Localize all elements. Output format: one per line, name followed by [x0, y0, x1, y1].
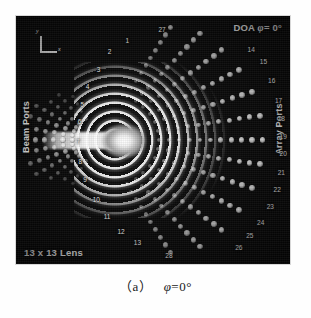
field-sample-dot — [203, 59, 208, 64]
field-sample-dot — [144, 212, 149, 217]
field-sample-dot — [49, 176, 53, 180]
beam-port-number: 8 — [78, 159, 82, 166]
field-sample-dot — [74, 113, 78, 117]
field-sample-dot — [201, 190, 206, 195]
beam-port-number: 5 — [80, 102, 84, 109]
array-port-number: 15 — [260, 59, 267, 66]
field-sample-dot — [156, 129, 160, 133]
field-sample-dot — [134, 177, 138, 181]
field-sample-dot — [188, 204, 193, 209]
field-sample-dot — [34, 148, 39, 153]
doa-annotation: DOA φ= 0° — [233, 22, 282, 33]
field-sample-dot — [178, 51, 183, 56]
field-sample-dot — [76, 174, 80, 178]
array-port-number: 25 — [246, 233, 253, 240]
field-sample-dot — [74, 125, 78, 129]
beam-port-number: 2 — [108, 49, 112, 56]
field-sample-dot — [247, 114, 253, 120]
field-sample-dot — [134, 99, 138, 103]
doa-text: DOA — [233, 22, 254, 33]
field-sample-dot — [66, 154, 70, 158]
field-sample-dot — [157, 108, 161, 112]
field-sample-dot — [72, 129, 77, 134]
field-sample-dot — [180, 199, 185, 204]
field-sample-dot — [37, 158, 42, 163]
field-sample-dot — [70, 117, 74, 121]
field-sample-dot — [210, 173, 215, 178]
array-port-number: 23 — [267, 204, 274, 211]
field-sample-dot — [148, 164, 152, 168]
field-sample-dot — [50, 112, 54, 116]
field-sample-dot — [34, 127, 39, 132]
field-sample-dot — [70, 137, 75, 142]
field-sample-dot — [166, 148, 170, 152]
field-sample-dot — [84, 117, 88, 121]
field-sample-dot — [63, 149, 68, 154]
field-sample-dot — [146, 85, 150, 89]
field-sample-dot — [60, 137, 65, 142]
field-sample-dot — [197, 31, 203, 37]
field-sample-dot — [37, 117, 42, 122]
field-sample-dot — [203, 216, 208, 221]
axis-y-label: y — [36, 28, 39, 34]
field-sample-dot — [69, 106, 73, 110]
array-port-number: 18 — [278, 116, 285, 123]
field-sample-dot — [227, 118, 232, 123]
figure-caption: （a） φ=0° — [0, 276, 311, 295]
field-sample-dot — [197, 244, 203, 250]
field-sample-dot — [125, 94, 129, 98]
array-port-number: 17 — [275, 98, 282, 105]
field-sample-dot — [191, 237, 197, 243]
field-sample-dot — [178, 224, 183, 229]
field-sample-dot — [148, 220, 153, 225]
field-sample-dot — [260, 137, 266, 143]
array-port-number: 26 — [235, 245, 242, 252]
field-sample-dot — [157, 168, 161, 172]
field-sample-dot — [153, 78, 158, 83]
field-sample-dot — [210, 81, 215, 86]
field-sample-dot — [236, 207, 242, 213]
beam-port-number: 11 — [104, 214, 111, 221]
field-sample-dot — [237, 159, 242, 164]
lens-size-label: 13 x 13 Lens — [24, 247, 83, 258]
field-sample-dot — [239, 92, 245, 98]
field-sample-dot — [172, 58, 177, 63]
beam-port-number: 7 — [76, 139, 80, 146]
field-sample-dot — [156, 147, 160, 151]
field-sample-dot — [148, 56, 153, 61]
field-sample-dot — [125, 182, 129, 186]
doa-value: = 0° — [264, 22, 282, 33]
field-sample-dot — [146, 190, 150, 194]
array-port-number: 14 — [248, 47, 255, 54]
field-sample-dot — [69, 170, 73, 174]
field-sample-dot — [166, 127, 170, 131]
array-port-number: 24 — [257, 220, 264, 227]
field-sample-dot — [56, 105, 60, 109]
field-sample-dot — [49, 100, 53, 104]
field-sample-dot — [33, 137, 38, 142]
field-sample-dot — [236, 67, 242, 73]
field-sample-dot — [58, 117, 62, 121]
figure-page: y x DOA φ= 0° 13 x 13 Lens Beam Ports Ar… — [0, 0, 311, 318]
field-sample-dot — [42, 108, 46, 112]
field-sample-dot — [219, 198, 224, 203]
field-sample-dot — [182, 111, 187, 116]
field-sample-dot — [28, 161, 33, 166]
field-sample-dot — [172, 114, 176, 118]
field-sample-dot — [211, 221, 217, 227]
field-sample-dot — [192, 90, 197, 95]
field-sample-dot — [227, 72, 233, 78]
field-sample-dot — [210, 102, 215, 107]
field-sample-dot — [191, 167, 196, 172]
field-sample-dot — [183, 94, 188, 99]
field-sample-dot — [157, 138, 161, 142]
field-sample-dot — [63, 165, 67, 169]
field-sample-dot — [57, 93, 61, 97]
field-sample-dot — [168, 25, 174, 31]
caption-value: =0° — [171, 279, 192, 294]
array-ports-label: Array Ports — [273, 103, 283, 154]
field-sample-dot — [153, 48, 158, 53]
field-sample-dot — [153, 156, 157, 160]
beam-port-number: 6 — [78, 119, 82, 126]
field-sample-dot — [257, 161, 263, 167]
